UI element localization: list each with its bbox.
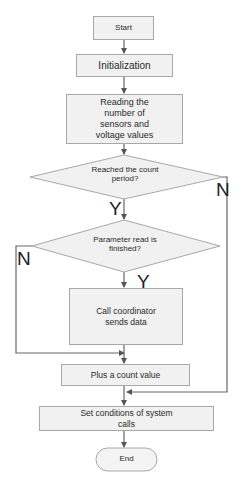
end-label: End xyxy=(96,454,157,463)
decision2-label: Parameter read is finished? xyxy=(84,235,166,253)
decision1-label: Reached the count period? xyxy=(85,165,165,183)
call-coordinator-label: Call coordinator sends data xyxy=(88,306,164,326)
start-node: Start xyxy=(93,16,154,40)
call-coordinator-node: Call coordinator sends data xyxy=(69,288,183,345)
decision2-no-label: N xyxy=(17,249,31,268)
initialization-node: Initialization xyxy=(76,54,173,77)
set-conditions-label: Set conditions of system calls xyxy=(78,408,175,428)
decision1-yes-label: Y xyxy=(109,199,122,218)
plus-count-label: Plus a count value xyxy=(91,370,160,380)
reading-node: Reading the number of sensors and voltag… xyxy=(66,94,183,144)
decision1-no-label: N xyxy=(216,180,230,199)
plus-count-node: Plus a count value xyxy=(61,364,190,386)
start-label: Start xyxy=(115,23,132,33)
reading-label: Reading the number of sensors and voltag… xyxy=(89,97,160,140)
initialization-label: Initialization xyxy=(98,60,150,72)
set-conditions-node: Set conditions of system calls xyxy=(39,406,214,431)
